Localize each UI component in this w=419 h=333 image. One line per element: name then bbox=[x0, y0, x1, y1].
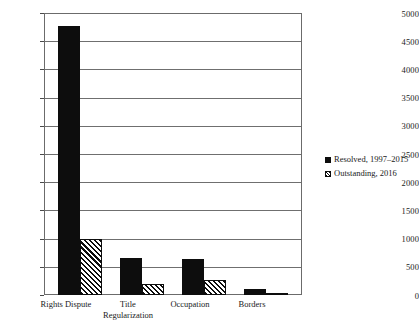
bar-resolved-rights-dispute bbox=[58, 26, 80, 295]
bar-outstanding-rights-dispute bbox=[80, 239, 102, 295]
hatched-square-icon bbox=[325, 171, 331, 177]
y-tick-label: 1000 bbox=[381, 235, 419, 244]
y-tick-label: 4500 bbox=[381, 38, 419, 47]
bar-resolved-occupation bbox=[182, 259, 204, 295]
legend: Resolved, 1997–2015 Outstanding, 2016 bbox=[325, 154, 419, 182]
y-tick-label: 0 bbox=[381, 292, 419, 301]
bars-layer bbox=[44, 13, 302, 295]
x-category-label-borders: Borders bbox=[202, 299, 302, 310]
y-tick-mark bbox=[40, 295, 44, 296]
x-category-line: Borders bbox=[202, 299, 302, 310]
legend-item-resolved: Resolved, 1997–2015 bbox=[325, 154, 419, 164]
bar-outstanding-title-regularization bbox=[142, 284, 164, 295]
y-tick-label: 4000 bbox=[381, 66, 419, 75]
y-tick-label: 3000 bbox=[381, 122, 419, 131]
bar-chart: 5000 4500 4000 3500 3000 2500 2000 1500 … bbox=[0, 0, 419, 333]
bar-resolved-title-regularization bbox=[120, 258, 142, 295]
y-tick-label: 500 bbox=[381, 263, 419, 272]
bar-resolved-borders bbox=[244, 289, 266, 295]
y-tick-label: 1500 bbox=[381, 207, 419, 216]
solid-square-icon bbox=[325, 157, 331, 163]
y-tick-label: 5000 bbox=[381, 10, 419, 19]
bar-outstanding-occupation bbox=[204, 280, 226, 295]
bar-outstanding-borders bbox=[266, 293, 288, 295]
x-category-line: Regularization bbox=[78, 310, 178, 321]
legend-item-outstanding: Outstanding, 2016 bbox=[325, 168, 419, 178]
legend-label: Resolved, 1997–2015 bbox=[334, 154, 408, 164]
y-tick-label: 3500 bbox=[381, 94, 419, 103]
legend-label: Outstanding, 2016 bbox=[334, 168, 397, 178]
